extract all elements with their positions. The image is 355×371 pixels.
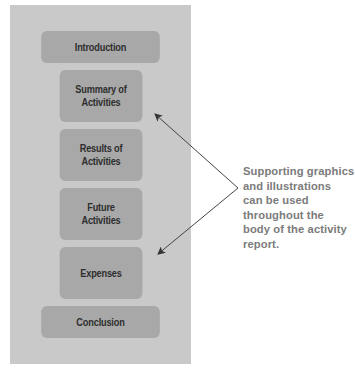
section-summary-of-activities: Summary of Activities [60, 70, 143, 122]
callout-text: Supporting graphics and illustrations ca… [243, 164, 355, 252]
section-label: Conclusion [76, 316, 124, 329]
section-expenses: Expenses [60, 247, 143, 299]
section-introduction: Introduction [41, 31, 160, 63]
section-label: Summary of Activities [75, 83, 126, 109]
section-results-of-activities: Results of Activities [60, 129, 143, 181]
section-future-activities: Future Activities [60, 188, 143, 240]
section-label: Introduction [75, 41, 126, 54]
section-label: Results of Activities [80, 142, 123, 168]
section-conclusion: Conclusion [41, 306, 160, 338]
section-label: Future Activities [81, 201, 120, 227]
section-label: Expenses [80, 267, 122, 280]
